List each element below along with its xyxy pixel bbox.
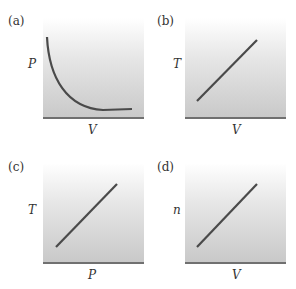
panel-b-ylabel: T xyxy=(173,57,181,71)
panel-a-plot xyxy=(43,18,144,119)
panel-d-plot xyxy=(185,163,286,264)
panel-c-plot xyxy=(43,163,144,264)
panel-a-x-axis xyxy=(43,117,144,119)
temperature-pressure-line xyxy=(43,163,144,264)
moles-volume-line xyxy=(185,163,286,264)
panel-b-x-axis xyxy=(185,117,286,119)
pressure-volume-curve xyxy=(43,18,144,119)
panel-b-xlabel: V xyxy=(232,123,241,137)
panel-b-label: (b) xyxy=(157,14,174,28)
panel-d-xlabel: V xyxy=(232,268,241,282)
panel-c-xlabel: P xyxy=(88,268,96,282)
panel-d-ylabel: n xyxy=(173,203,181,217)
temperature-volume-line xyxy=(185,18,286,119)
panel-b-plot xyxy=(185,18,286,119)
panel-c-x-axis xyxy=(43,262,144,264)
panel-a-ylabel: P xyxy=(28,57,36,71)
panel-d-label: (d) xyxy=(157,160,174,174)
panel-c-ylabel: T xyxy=(28,203,36,217)
panel-c-label: (c) xyxy=(8,160,24,174)
panel-d-x-axis xyxy=(185,262,286,264)
panel-a-label: (a) xyxy=(8,14,25,28)
panel-a-xlabel: V xyxy=(88,123,97,137)
